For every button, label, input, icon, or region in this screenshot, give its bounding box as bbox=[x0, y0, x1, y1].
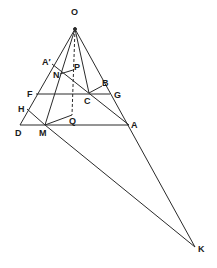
point-label-h: H bbox=[18, 104, 25, 114]
segment-o-k bbox=[75, 29, 195, 247]
diagram-labels: OA′NPFCBGHDMQAK bbox=[15, 7, 205, 254]
point-label-b: B bbox=[102, 78, 109, 88]
point-label-p: P bbox=[74, 62, 80, 72]
point-label-o: O bbox=[71, 7, 78, 17]
point-label-m: M bbox=[39, 128, 47, 138]
point-label-a-prime: A′ bbox=[42, 57, 51, 67]
point-label-d: D bbox=[15, 128, 22, 138]
segment-h-m bbox=[27, 109, 45, 125]
segment-m-q bbox=[45, 115, 72, 125]
segment-c-b bbox=[89, 86, 102, 93]
point-label-q: Q bbox=[69, 116, 76, 126]
segment-o-q bbox=[72, 29, 75, 115]
geometric-diagram: OA′NPFCBGHDMQAK bbox=[0, 0, 217, 268]
apex-point-o bbox=[74, 28, 77, 31]
point-label-n: N bbox=[53, 70, 60, 80]
point-label-f: F bbox=[27, 89, 33, 99]
point-label-k: K bbox=[198, 244, 205, 254]
point-label-a: A bbox=[131, 120, 138, 130]
point-label-g: G bbox=[114, 90, 121, 100]
point-label-c: C bbox=[84, 96, 91, 106]
segment-m-k bbox=[45, 125, 195, 247]
segment-o-m bbox=[45, 29, 75, 125]
